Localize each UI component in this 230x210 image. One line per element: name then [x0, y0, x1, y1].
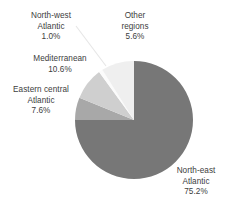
slice-label-line2: regions [98, 22, 172, 33]
slice-label-line1: North-east [163, 166, 229, 177]
slice-percent: 1.0% [8, 32, 94, 43]
slice-label-line2: Atlantic [0, 96, 82, 107]
slice-label-north-east-atlantic: North-east Atlantic 75.2% [163, 166, 229, 198]
slice-percent: 7.6% [0, 106, 82, 117]
slice-label-line1: Eastern central [0, 85, 82, 96]
slice-label-line2: Atlantic [8, 22, 94, 33]
slice-label-line2: Atlantic [163, 177, 229, 188]
slice-label-other-regions: Other regions 5.6% [98, 11, 172, 43]
slice-label-line1: North-west [8, 11, 94, 22]
slice-label-north-west-atlantic: North-west Atlantic 1.0% [8, 11, 94, 43]
slice-percent: 75.2% [163, 187, 229, 198]
slice-label-line1: Mediterranean [12, 54, 108, 65]
cropped-caption [32, 201, 182, 207]
slice-percent: 5.6% [98, 32, 172, 43]
slice-label-eastern-central-atlantic: Eastern central Atlantic 7.6% [0, 85, 82, 117]
slice-percent: 10.6% [12, 65, 108, 76]
slice-label-line1: Other [98, 11, 172, 22]
slice-label-mediterranean: Mediterranean 10.6% [12, 54, 108, 75]
pie-chart: North-west Atlantic 1.0% Other regions 5… [0, 0, 230, 210]
